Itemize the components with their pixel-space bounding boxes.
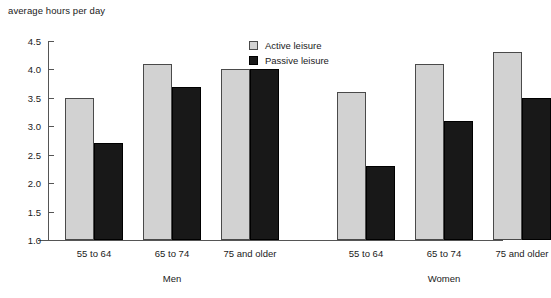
- x-axis-line: [38, 240, 503, 241]
- bar: [94, 143, 123, 240]
- y-tick-label: 2.5: [28, 149, 41, 160]
- y-tick-mark: [49, 155, 54, 156]
- y-axis-line: [48, 41, 49, 240]
- bar: [221, 69, 250, 240]
- category-label-women-2: 65 to 74: [427, 248, 461, 259]
- bar: [250, 69, 279, 240]
- y-tick-mark: [49, 212, 54, 213]
- category-label-men-2: 65 to 74: [155, 248, 189, 259]
- legend-label-active-leisure: Active leisure: [265, 40, 322, 51]
- chart-title: average hours per day: [8, 5, 105, 16]
- y-tick-mark: [49, 126, 54, 127]
- bar: [366, 166, 395, 240]
- y-tick-mark: [49, 240, 54, 241]
- y-tick-mark: [49, 183, 54, 184]
- plot-area: 4.54.03.53.02.52.01.51.0 55 to 6465 to 7…: [48, 41, 503, 240]
- y-tick-label: 1.0: [28, 235, 41, 246]
- bar: [143, 64, 172, 240]
- category-label-men-3: 75 and older: [224, 248, 277, 259]
- y-tick-label: 3.5: [28, 92, 41, 103]
- legend-swatch-passive-leisure: [249, 56, 258, 65]
- y-tick-mark: [49, 69, 54, 70]
- category-label-women-1: 55 to 64: [349, 248, 383, 259]
- bar: [65, 98, 94, 240]
- legend-swatch-active-leisure: [249, 41, 258, 50]
- y-tick-mark: [49, 98, 54, 99]
- category-label-women-3: 75 and older: [496, 248, 549, 259]
- legend-item-active-leisure: Active leisure: [249, 38, 329, 53]
- chart-legend: Active leisure Passive leisure: [249, 38, 329, 68]
- y-tick-label: 2.0: [28, 178, 41, 189]
- group-label-men: Men: [163, 273, 181, 284]
- bar: [337, 92, 366, 240]
- bar: [522, 98, 551, 240]
- group-label-women: Women: [428, 273, 461, 284]
- y-tick-mark: [49, 41, 54, 42]
- bar: [172, 87, 201, 241]
- y-tick-label: 3.0: [28, 121, 41, 132]
- y-tick-label: 1.5: [28, 206, 41, 217]
- bar: [415, 64, 444, 240]
- bar: [444, 121, 473, 240]
- y-tick-label: 4.5: [28, 36, 41, 47]
- bar: [493, 52, 522, 240]
- legend-item-passive-leisure: Passive leisure: [249, 53, 329, 68]
- y-tick-label: 4.0: [28, 64, 41, 75]
- category-label-men-1: 55 to 64: [77, 248, 111, 259]
- legend-label-passive-leisure: Passive leisure: [265, 55, 329, 66]
